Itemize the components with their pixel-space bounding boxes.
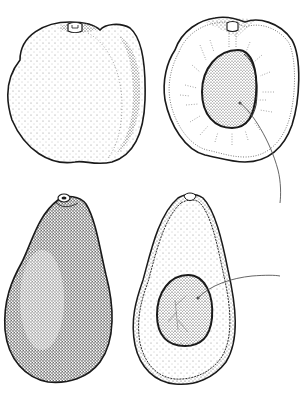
avocado-whole [5,194,112,382]
fruit-illustration [0,0,303,393]
apricot-stem [68,23,82,33]
apricot-whole [8,22,145,163]
apricot-half [164,17,299,203]
illustration-canvas [0,0,303,393]
avocado-seed [157,275,212,346]
avocado-half [133,193,280,384]
